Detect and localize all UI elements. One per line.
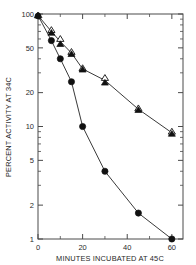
y-axis-label: PERCENT ACTIVITY AT 34C	[4, 76, 13, 177]
data-markers	[34, 12, 175, 242]
data-point-marker	[169, 236, 175, 242]
y-axis-major-ticks	[38, 14, 43, 239]
y-tick-label: 20	[26, 88, 34, 97]
data-point-marker	[68, 79, 74, 85]
x-axis-label: MINUTES INCUBATED AT 45C	[56, 254, 164, 263]
chart-figure: 125102050100 0204060 MINUTES INCUBATED A…	[0, 0, 196, 265]
semilog-decay-plot: 125102050100 0204060 MINUTES INCUBATED A…	[0, 0, 196, 265]
data-point-marker	[57, 56, 63, 62]
y-tick-label: 100	[21, 10, 34, 19]
x-tick-label: 0	[36, 243, 40, 252]
data-point-marker	[102, 168, 108, 174]
y-tick-label: 10	[26, 122, 34, 131]
y-axis-tick-labels: 125102050100	[21, 10, 34, 244]
x-tick-label: 60	[168, 243, 176, 252]
plot-frame	[38, 14, 183, 239]
y-axis-right-ticks	[178, 14, 183, 239]
data-point-marker	[35, 13, 41, 19]
data-curves	[38, 15, 172, 239]
x-tick-label: 20	[78, 243, 86, 252]
data-point-marker	[80, 123, 86, 129]
lower-decay-curve	[38, 15, 172, 239]
data-point-marker	[135, 210, 141, 216]
x-axis-top-ticks	[38, 14, 172, 19]
data-point-marker	[48, 38, 54, 44]
x-axis-tick-labels: 0204060	[36, 243, 176, 252]
y-tick-label: 1	[30, 235, 34, 244]
x-axis-ticks	[38, 234, 172, 239]
y-tick-label: 50	[26, 44, 34, 53]
x-tick-label: 40	[123, 243, 131, 252]
y-tick-label: 2	[30, 201, 34, 210]
y-tick-label: 5	[30, 156, 34, 165]
